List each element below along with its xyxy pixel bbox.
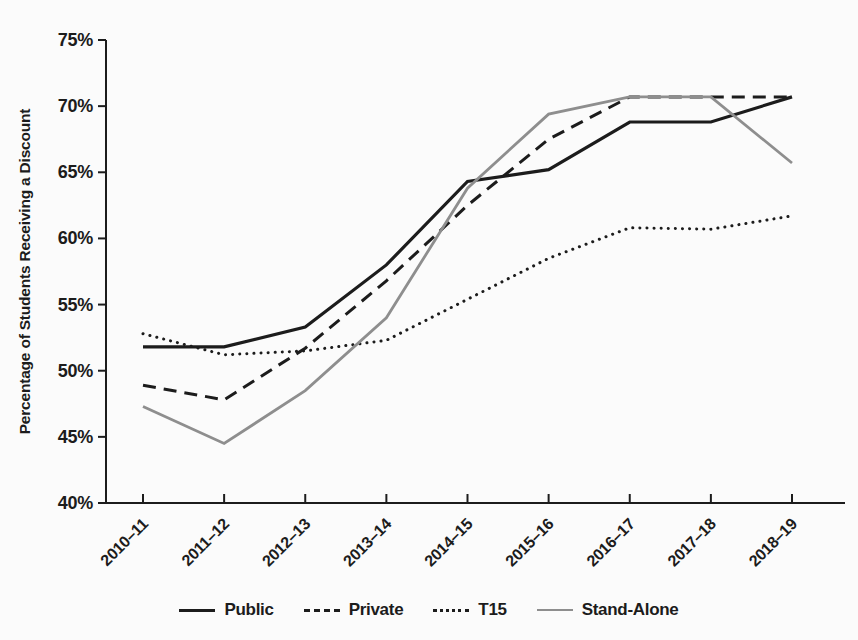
t15-line-swatch-icon xyxy=(433,609,469,612)
y-tick-label: 55% xyxy=(58,295,93,315)
legend-item-private: Private xyxy=(304,600,404,620)
y-axis-title: Percentage of Students Receiving a Disco… xyxy=(16,109,33,435)
legend-label-public: Public xyxy=(224,600,273,620)
x-tick-label: 2018–19 xyxy=(746,515,801,570)
y-tick-label: 50% xyxy=(58,361,93,381)
series-line-stand-alone xyxy=(143,97,792,444)
x-tick-label: 2013–14 xyxy=(340,515,395,570)
y-tick-label: 40% xyxy=(58,493,93,513)
stand-alone-line-swatch-icon xyxy=(537,609,573,611)
x-tick-label: 2011–12 xyxy=(178,515,232,569)
y-tick-label: 60% xyxy=(58,228,93,248)
y-tick-label: 45% xyxy=(58,427,93,447)
legend-label-t15: T15 xyxy=(478,600,506,620)
legend-item-public: Public xyxy=(179,600,273,620)
legend-item-stand-alone: Stand-Alone xyxy=(537,600,679,620)
y-tick-label: 65% xyxy=(58,162,93,182)
discount-line-chart-figure: 40%45%50%55%60%65%70%75%2010–112011–1220… xyxy=(0,0,858,640)
x-tick-label: 2014–15 xyxy=(421,515,476,570)
series-line-public xyxy=(143,97,792,347)
public-line-swatch-icon xyxy=(179,609,215,612)
x-tick-label: 2010–11 xyxy=(97,515,151,569)
series-line-t15 xyxy=(143,216,792,355)
x-tick-label: 2012–13 xyxy=(259,515,314,570)
legend-label-private: Private xyxy=(349,600,404,620)
private-line-swatch-icon xyxy=(304,609,340,612)
x-tick-label: 2015–16 xyxy=(502,515,557,570)
legend-item-t15: T15 xyxy=(433,600,506,620)
y-tick-label: 75% xyxy=(58,30,93,50)
x-tick-label: 2016–17 xyxy=(583,515,638,570)
y-tick-label: 70% xyxy=(58,96,93,116)
line-chart: 40%45%50%55%60%65%70%75%2010–112011–1220… xyxy=(0,0,858,640)
x-tick-label: 2017–18 xyxy=(664,515,719,570)
chart-legend: Public Private T15 Stand-Alone xyxy=(0,600,858,620)
legend-label-stand-alone: Stand-Alone xyxy=(582,600,679,620)
